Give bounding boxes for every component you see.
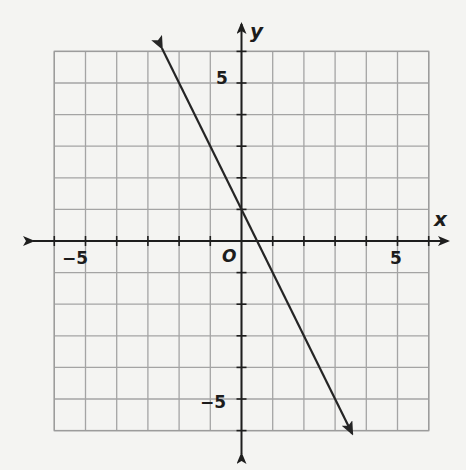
coordinate-plane: x y O −5 5 5 −5 (0, 0, 466, 470)
line-graph: x y O −5 5 5 −5 (0, 0, 466, 470)
y-tick-label-neg5: −5 (200, 392, 226, 412)
x-tick-label-neg5: −5 (62, 248, 88, 268)
y-axis-label: y (250, 19, 264, 43)
x-tick-label-5: 5 (390, 248, 402, 268)
origin-label: O (222, 246, 236, 266)
x-axis-label: x (433, 207, 448, 231)
y-tick-label-5: 5 (216, 68, 228, 88)
